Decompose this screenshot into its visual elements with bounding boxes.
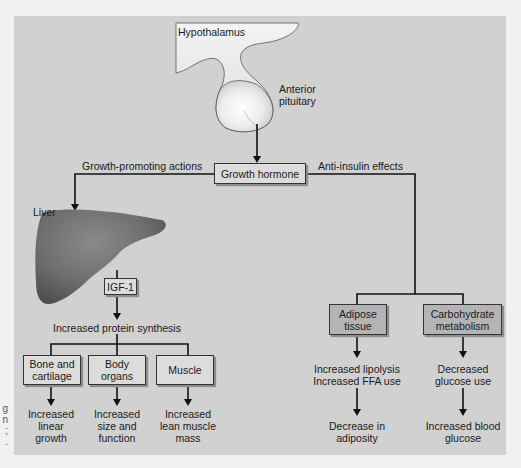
box-line: Adipose: [339, 308, 377, 320]
linear-growth-outcome: Increased linear growth: [21, 408, 81, 444]
anti-insulin-connector: [305, 174, 463, 305]
box-line: Carbohydrate: [431, 308, 495, 320]
effect-line: glucose use: [423, 375, 503, 387]
outcome-line: adiposity: [317, 432, 397, 444]
growth-promoting-label: Growth-promoting actions: [82, 160, 202, 172]
growth-hormone-box: Growth hormone: [214, 163, 306, 184]
liver-illustration: [35, 209, 166, 304]
effect-line: Increased lipolysis: [307, 363, 407, 375]
outcome-line: function: [87, 432, 147, 444]
adiposity-outcome: Decrease in adiposity: [317, 420, 397, 444]
adipose-tissue-box: Adipose tissue: [329, 304, 387, 335]
anterior-pituitary-line2: pituitary: [279, 95, 316, 107]
carbohydrate-metabolism-box: Carbohydrate metabolism: [423, 304, 502, 335]
box-line: Muscle: [168, 364, 201, 376]
outcome-line: Increased: [87, 408, 147, 420]
box-line: tissue: [344, 320, 371, 332]
muscle-box: Muscle: [156, 355, 214, 385]
body-organs-box: Body organs: [88, 355, 146, 385]
anterior-pituitary-line1: Anterior: [279, 83, 316, 95]
outcome-line: size and: [87, 420, 147, 432]
box-line: organs: [101, 370, 133, 382]
diagram-graphics: [0, 0, 521, 468]
bone-cartilage-box: Bone and cartilage: [23, 355, 81, 385]
lean-muscle-outcome: Increased lean muscle mass: [153, 408, 223, 444]
outcome-line: glucose: [418, 432, 508, 444]
growth-promoting-connector: [71, 174, 214, 211]
blood-glucose-outcome: Increased blood glucose: [418, 420, 508, 444]
lipolysis-effect: Increased lipolysis Increased FFA use: [307, 363, 407, 387]
outcome-line: mass: [153, 432, 223, 444]
outcome-line: Increased: [153, 408, 223, 420]
protein-synthesis-label: Increased protein synthesis: [52, 322, 182, 334]
effect-line: Decreased: [423, 363, 503, 375]
outcome-line: growth: [21, 432, 81, 444]
box-line: metabolism: [436, 320, 490, 332]
outcome-line: Increased blood: [418, 420, 508, 432]
outcome-line: linear: [21, 420, 81, 432]
glucose-use-effect: Decreased glucose use: [423, 363, 503, 387]
anterior-pituitary-label: Anterior pituitary: [279, 83, 316, 107]
box-line: cartilage: [32, 370, 72, 382]
anti-insulin-label: Anti-insulin effects: [318, 160, 403, 172]
box-line: Bone and: [30, 358, 75, 370]
outcome-line: lean muscle: [153, 420, 223, 432]
igf-1-box: IGF-1: [104, 278, 137, 295]
box-line: Body: [105, 358, 129, 370]
outcome-line: Increased: [21, 408, 81, 420]
size-function-outcome: Increased size and function: [87, 408, 147, 444]
liver-label: Liver: [33, 206, 56, 218]
effect-line: Increased FFA use: [307, 375, 407, 387]
outcome-line: Decrease in: [317, 420, 397, 432]
hypothalamus-label: Hypothalamus: [178, 26, 245, 38]
